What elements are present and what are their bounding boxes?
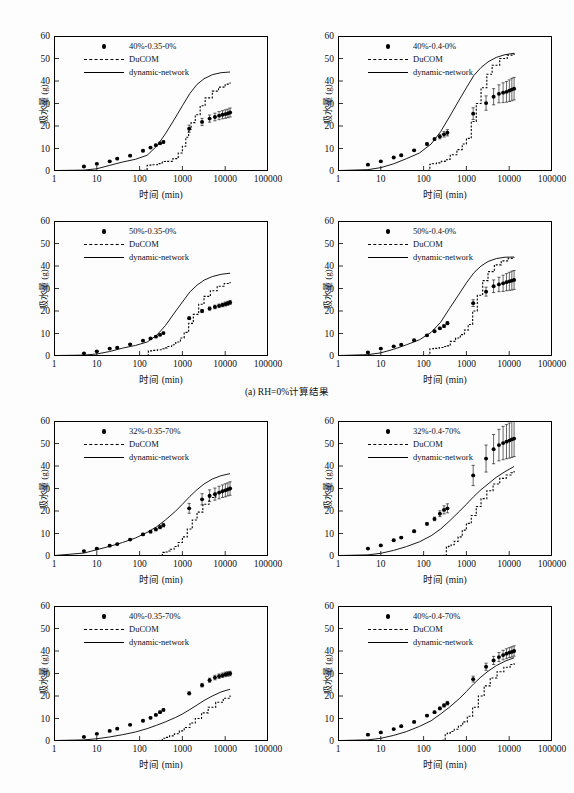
data-point <box>445 506 449 510</box>
data-point <box>497 443 501 447</box>
y-tick-label: 30 <box>325 99 335 109</box>
solid-line-icon <box>366 642 410 643</box>
x-tick-label: 1 <box>52 744 57 754</box>
legend-label-series: 50%-0.4-0% <box>410 225 456 238</box>
data-point <box>484 290 488 294</box>
y-tick-label: 40 <box>325 646 335 656</box>
legend-8: 40%-0.4-70% DuCOM dynamic-network <box>366 610 473 649</box>
data-points-group <box>82 300 232 355</box>
y-tick-label: 10 <box>41 714 51 724</box>
y-tick-label: 30 <box>325 669 335 679</box>
y-tick-label: 60 <box>41 416 51 426</box>
y-tick-label: 0 <box>45 166 50 176</box>
data-point <box>95 732 99 736</box>
data-point <box>445 131 449 135</box>
y-tick-label: 20 <box>325 306 335 316</box>
y-tick-label: 60 <box>41 216 51 226</box>
x-tick-label: 100000 <box>538 744 567 754</box>
y-tick-label: 50 <box>41 54 51 64</box>
data-points-group <box>82 108 232 168</box>
plot-area-2: 吸水量 (g) 40%-0.4-0% DuCOM dynamic-network… <box>338 36 552 171</box>
data-point <box>108 544 112 548</box>
legend-label-dynamic: dynamic-network <box>410 66 473 79</box>
x-tick-label: 100 <box>132 559 146 569</box>
solid-line-icon <box>82 457 126 458</box>
legend-entry-ducom: DuCOM <box>82 438 189 451</box>
data-point <box>497 92 501 96</box>
legend-4: 50%-0.4-0% DuCOM dynamic-network <box>366 225 473 264</box>
legend-entry-dynamic: dynamic-network <box>366 636 473 649</box>
dynamic-network-curve <box>54 474 230 556</box>
data-point <box>141 533 145 537</box>
x-tick-label: 100 <box>132 744 146 754</box>
data-point <box>484 665 488 669</box>
legend-entry-series: 40%-0.35-0% <box>82 40 189 53</box>
x-tick-label: 100000 <box>538 359 567 369</box>
legend-5: 32%-0.35-70% DuCOM dynamic-network <box>82 425 189 464</box>
data-point <box>512 437 516 441</box>
x-axis-label: 时间 (min) <box>423 757 466 771</box>
data-point <box>392 156 396 160</box>
y-tick-label: 0 <box>45 351 50 361</box>
data-point <box>213 305 217 309</box>
data-point <box>82 165 86 169</box>
data-point <box>95 162 99 166</box>
data-point <box>228 672 232 676</box>
legend-entry-dynamic: dynamic-network <box>82 636 189 649</box>
data-point <box>497 283 501 287</box>
x-tick-label: 10000 <box>213 559 237 569</box>
y-tick-label: 30 <box>41 99 51 109</box>
y-tick-label: 10 <box>325 329 335 339</box>
y-tick-label: 60 <box>41 601 51 611</box>
plot-area-7: 吸水量 (g) 40%-0.35-70% DuCOM dynamic-netwo… <box>54 606 268 741</box>
data-point <box>95 349 99 353</box>
x-tick-label: 100000 <box>538 559 567 569</box>
data-point <box>161 331 165 335</box>
data-point <box>438 135 442 139</box>
data-point <box>379 347 383 351</box>
ducom-curve <box>54 282 230 356</box>
y-tick-label: 60 <box>325 601 335 611</box>
data-point <box>228 111 232 115</box>
x-tick-label: 10000 <box>497 174 521 184</box>
marker-dot-icon <box>82 229 126 234</box>
x-tick-label: 100000 <box>538 174 567 184</box>
dynamic-network-curve <box>338 466 514 555</box>
chart-panel-4: 吸水量 (g) 50%-0.4-0% DuCOM dynamic-network… <box>300 215 560 400</box>
legend-entry-ducom: DuCOM <box>82 53 189 66</box>
y-tick-label: 0 <box>329 551 334 561</box>
data-point <box>379 544 383 548</box>
data-point <box>412 148 416 152</box>
x-tick-label: 1000 <box>457 174 476 184</box>
chart-panel-6: 吸水量 (g) 32%-0.4-70% DuCOM dynamic-networ… <box>300 415 560 600</box>
plot-area-8: 吸水量 (g) 40%-0.4-70% DuCOM dynamic-networ… <box>338 606 552 741</box>
data-point <box>200 309 204 313</box>
data-point <box>82 549 86 553</box>
data-point <box>115 542 119 546</box>
y-tick-label: 20 <box>41 691 51 701</box>
data-point <box>399 536 403 540</box>
legend-entry-series: 40%-0.4-0% <box>366 40 473 53</box>
data-point <box>187 316 191 320</box>
y-tick-label: 50 <box>325 439 335 449</box>
data-point <box>492 95 496 99</box>
data-point <box>200 120 204 124</box>
data-point <box>442 132 446 136</box>
data-point <box>512 278 516 282</box>
data-points-group <box>366 646 516 737</box>
marker-dot-icon <box>366 614 410 619</box>
marker-dot-icon <box>82 429 126 434</box>
data-point <box>438 706 442 710</box>
y-tick-label: 10 <box>325 144 335 154</box>
legend-label-ducom: DuCOM <box>126 438 159 451</box>
legend-label-dynamic: dynamic-network <box>126 66 189 79</box>
x-tick-label: 1000 <box>173 174 192 184</box>
data-point <box>425 142 429 146</box>
data-point <box>399 343 403 347</box>
x-tick-label: 10000 <box>497 744 521 754</box>
y-tick-label: 30 <box>41 284 51 294</box>
y-tick-label: 10 <box>325 529 335 539</box>
data-point <box>208 494 212 498</box>
data-point <box>433 517 437 521</box>
x-axis-label: 时间 (min) <box>423 572 466 586</box>
